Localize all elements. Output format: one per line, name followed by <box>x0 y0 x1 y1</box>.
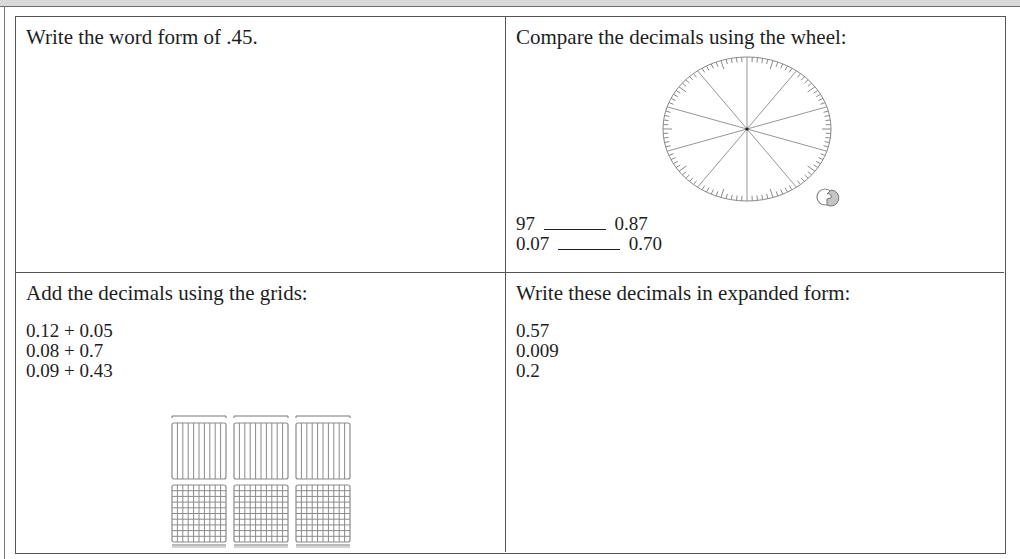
decimal-wheel-figure <box>659 54 849 218</box>
answer-blank[interactable] <box>558 235 620 250</box>
expanded-form-list: 0.57 0.009 0.2 <box>516 321 559 381</box>
comparison-right: 0.87 <box>615 213 648 234</box>
wheel-icon <box>659 54 849 214</box>
compare-prompt: Compare the decimals using the wheel: <box>516 25 847 49</box>
decimal-item: 0.57 <box>516 321 559 341</box>
addition-problem: 0.09 + 0.43 <box>26 361 113 381</box>
cell-word-form: Write the word form of .45. <box>16 17 506 273</box>
addition-problem: 0.08 + 0.7 <box>26 341 113 361</box>
answer-blank[interactable] <box>544 215 606 230</box>
comparison-left: 97 <box>516 213 535 234</box>
comparison-row: 0.07 0.70 <box>516 234 662 254</box>
cell-compare-decimals: Compare the decimals using the wheel: 97… <box>506 17 1004 273</box>
comparison-left: 0.07 <box>516 233 549 254</box>
comparison-right: 0.70 <box>629 233 662 254</box>
comparison-row: 97 0.87 <box>516 214 662 234</box>
decimal-item: 0.2 <box>516 361 559 381</box>
addition-problem: 0.12 + 0.05 <box>26 321 113 341</box>
outer-frame-line <box>4 6 5 559</box>
cell-add-decimals: Add the decimals using the grids: 0.12 +… <box>16 273 506 552</box>
decimal-item: 0.009 <box>516 341 559 361</box>
grid-blocks-icon <box>171 413 361 548</box>
comparison-list: 97 0.87 0.07 0.70 <box>516 214 662 254</box>
cell-expanded-form: Write these decimals in expanded form: 0… <box>506 273 1004 552</box>
top-frame-strip <box>0 0 1020 7</box>
worksheet-table: Write the word form of .45. Compare the … <box>15 16 1006 554</box>
expanded-form-prompt: Write these decimals in expanded form: <box>516 281 850 305</box>
decimal-grids-figure <box>171 413 361 552</box>
addition-problem-list: 0.12 + 0.05 0.08 + 0.7 0.09 + 0.43 <box>26 321 113 381</box>
word-form-prompt: Write the word form of .45. <box>26 25 258 49</box>
add-prompt: Add the decimals using the grids: <box>26 281 308 305</box>
